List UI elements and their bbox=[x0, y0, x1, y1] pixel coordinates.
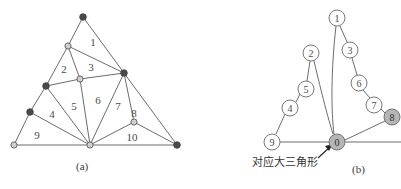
tree-node-label: 2 bbox=[309, 48, 314, 59]
figure-svg: 1 2 3 4 5 6 7 8 9 10 bbox=[0, 0, 401, 189]
face-label: 10 bbox=[127, 131, 139, 143]
tree-link bbox=[345, 121, 385, 140]
tree-node-label: 3 bbox=[348, 45, 353, 56]
mesh-vertex bbox=[77, 76, 83, 82]
mesh-edge bbox=[80, 73, 124, 79]
tree-link bbox=[381, 109, 385, 113]
annotation-text: 对应大三角形 bbox=[252, 153, 318, 169]
figure-container: 1 2 3 4 5 6 7 8 9 10 bbox=[0, 0, 401, 189]
panel-b-tree: 1 2 3 5 6 bbox=[264, 10, 401, 158]
mesh-vertex bbox=[121, 70, 128, 77]
tree-node-highlighted: 8 bbox=[384, 109, 400, 125]
tree-node-label: 8 bbox=[390, 112, 395, 123]
mesh-vertex bbox=[11, 142, 17, 148]
tree-link bbox=[352, 58, 357, 75]
tree-node: 3 bbox=[342, 42, 358, 58]
tree-link bbox=[296, 94, 300, 102]
face-label: 6 bbox=[95, 94, 101, 106]
mesh-vertex bbox=[80, 14, 87, 21]
panel-b-links bbox=[276, 26, 401, 142]
tree-node-highlighted: 0 bbox=[329, 134, 345, 150]
tree-node: 6 bbox=[351, 75, 367, 91]
tree-link-curved bbox=[332, 26, 336, 134]
mesh-vertex bbox=[65, 43, 71, 49]
tree-node-label: 4 bbox=[288, 103, 293, 114]
mesh-edge bbox=[134, 122, 177, 145]
face-label: 2 bbox=[61, 63, 67, 75]
face-label: 3 bbox=[88, 61, 94, 73]
tree-link bbox=[340, 26, 347, 42]
tree-link-curved bbox=[314, 61, 333, 134]
tree-node: 1 bbox=[329, 10, 345, 26]
face-label: 8 bbox=[131, 107, 137, 119]
tree-link bbox=[276, 114, 285, 134]
face-label: 4 bbox=[49, 108, 55, 120]
face-label: 1 bbox=[90, 36, 96, 48]
tree-node: 7 bbox=[366, 97, 382, 113]
mesh-vertex bbox=[27, 109, 34, 116]
mesh-vertex bbox=[43, 83, 50, 90]
tree-node: 4 bbox=[282, 100, 298, 116]
tree-node-label: 6 bbox=[357, 78, 362, 89]
tree-node-label: 9 bbox=[270, 137, 275, 148]
panel-a-mesh: 1 2 3 4 5 6 7 8 9 10 bbox=[11, 14, 180, 149]
mesh-edge bbox=[14, 112, 30, 145]
tree-node: 5 bbox=[298, 81, 314, 97]
tree-node: 9 bbox=[264, 134, 280, 150]
mesh-edge bbox=[30, 86, 46, 112]
mesh-edge bbox=[80, 79, 90, 145]
mesh-vertex bbox=[131, 119, 137, 125]
mesh-vertex bbox=[174, 142, 181, 149]
panel-b-caption: (b) bbox=[352, 163, 365, 175]
tree-link bbox=[363, 90, 370, 98]
face-label: 5 bbox=[71, 100, 77, 112]
mesh-edge bbox=[68, 17, 83, 46]
tree-link bbox=[307, 61, 310, 81]
panel-a-face-labels: 1 2 3 4 5 6 7 8 9 10 bbox=[34, 36, 138, 143]
mesh-vertex bbox=[87, 142, 93, 148]
tree-node-label: 7 bbox=[372, 100, 377, 111]
mesh-edge bbox=[46, 79, 80, 86]
panel-a-caption: (a) bbox=[76, 160, 88, 172]
tree-node-label: 1 bbox=[335, 13, 340, 24]
tree-node: 2 bbox=[303, 45, 319, 61]
face-label: 9 bbox=[34, 129, 40, 141]
tree-node-label: 5 bbox=[304, 84, 309, 95]
tree-node-label: 0 bbox=[335, 137, 340, 148]
face-label: 7 bbox=[115, 100, 121, 112]
